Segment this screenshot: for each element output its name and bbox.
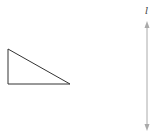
arrow-down-icon (145, 124, 150, 131)
right-triangle (8, 49, 70, 84)
arrow-up-icon (145, 21, 150, 28)
line-label: l (145, 5, 148, 16)
diagram-canvas: l (0, 0, 158, 138)
